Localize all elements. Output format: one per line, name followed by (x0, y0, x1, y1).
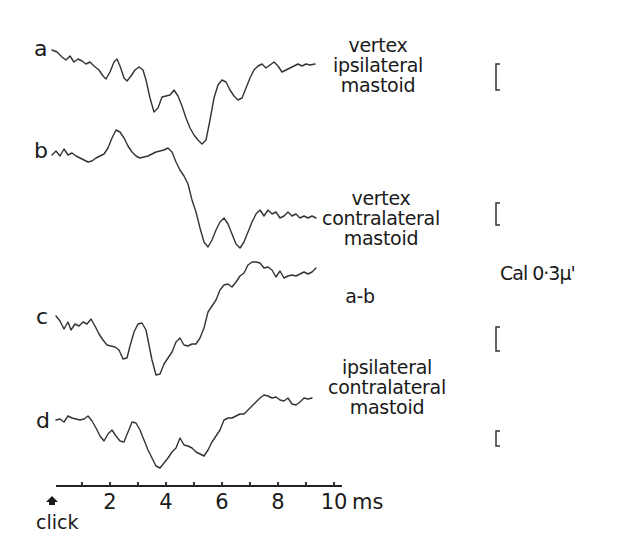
derivation-label-c: a-b (330, 286, 390, 306)
calibration-bracket-d (496, 431, 500, 446)
trace-label-d: d (36, 410, 50, 432)
derivation-label-a: vertex ipsilateral mastoid (318, 35, 438, 95)
derivation-label-d: ipsilateral contralateral mastoid (322, 357, 452, 417)
calibration-bracket-a (496, 64, 500, 90)
tick-label-4: 4 (159, 490, 172, 514)
derivation-label-b: vertex contralateral mastoid (316, 188, 446, 248)
calibration-bracket-b (496, 203, 500, 225)
trace-label-c: c (36, 306, 48, 328)
stimulus-arrow-icon (46, 496, 58, 505)
stimulus-label: click (36, 511, 78, 533)
calibration-brackets (496, 64, 500, 446)
tick-label-10: 10 (321, 490, 348, 514)
trace-b (52, 130, 316, 248)
calibration-label: Cal 0·3µ' (500, 262, 575, 284)
trace-label-b: b (34, 140, 48, 162)
tick-label-8: 8 (271, 490, 284, 514)
trace-label-a: a (34, 38, 47, 60)
tick-label-6: 6 (215, 490, 228, 514)
trace-c (56, 262, 316, 375)
tick-label-2: 2 (103, 490, 116, 514)
axis-unit-label: ms (352, 490, 383, 514)
time-axis (56, 482, 342, 486)
trace-a (52, 50, 315, 144)
waveform-figure: a b c d vertex ipsilateral mastoid verte… (0, 0, 622, 550)
trace-d (56, 395, 312, 468)
calibration-bracket-c (496, 327, 500, 351)
